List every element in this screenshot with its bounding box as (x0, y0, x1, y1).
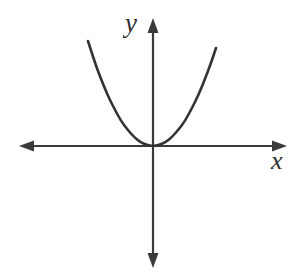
y-axis-label: y (125, 10, 137, 37)
coordinate-plane-svg (0, 0, 306, 272)
graph-figure: y x (0, 0, 306, 272)
x-axis-label: x (271, 148, 283, 174)
